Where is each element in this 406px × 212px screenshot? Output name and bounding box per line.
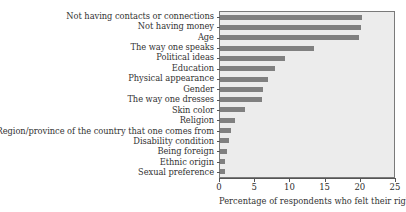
category-tick xyxy=(217,58,220,59)
category-tick xyxy=(217,151,220,152)
x-axis-tick-label: 10 xyxy=(284,183,295,192)
category-label: Being foreign xyxy=(157,147,214,156)
bar-row xyxy=(220,167,394,177)
bar xyxy=(220,97,262,102)
bar xyxy=(220,35,359,40)
x-axis: 0510152025 xyxy=(219,178,395,179)
category-label-row: Not having contacts or connections xyxy=(0,11,217,21)
category-tick xyxy=(217,100,220,101)
category-tick xyxy=(217,120,220,121)
bar xyxy=(220,87,263,92)
category-label: The way one dresses xyxy=(127,95,214,104)
category-label-row: Age xyxy=(0,32,217,42)
category-tick xyxy=(217,162,220,163)
bar xyxy=(220,138,229,143)
x-axis-tick-label: 0 xyxy=(216,183,221,192)
category-label-row: Not having money xyxy=(0,21,217,31)
category-label: The way one speaks xyxy=(131,43,215,52)
x-axis-tick-label: 20 xyxy=(354,183,365,192)
bar-row xyxy=(220,53,394,63)
bar xyxy=(220,56,285,61)
category-label: Ethnic origin xyxy=(160,158,214,167)
bar-row xyxy=(220,84,394,94)
category-label-row: Being foreign xyxy=(0,147,217,157)
bar-row xyxy=(220,136,394,146)
category-label: Political ideas xyxy=(156,53,214,62)
category-label: Education xyxy=(172,64,214,73)
x-axis-tick-label: 5 xyxy=(251,183,256,192)
category-label-row: Political ideas xyxy=(0,53,217,63)
category-tick xyxy=(217,110,220,111)
bar-row xyxy=(220,43,394,53)
category-label-row: Gender xyxy=(0,84,217,94)
bar xyxy=(220,107,245,112)
category-axis-labels: Not having contacts or connectionsNot ha… xyxy=(0,11,217,178)
bar-row xyxy=(220,74,394,84)
category-tick xyxy=(217,17,220,18)
bar xyxy=(220,46,314,51)
category-label: Sexual preference xyxy=(138,168,214,177)
bar-chart: Not having contacts or connectionsNot ha… xyxy=(0,0,406,212)
category-tick xyxy=(217,131,220,132)
category-label: Age xyxy=(198,33,214,42)
bar xyxy=(220,169,225,174)
bar-row xyxy=(220,12,394,22)
category-label: Not having money xyxy=(138,22,214,31)
category-label-row: Region/province of the country that one … xyxy=(0,126,217,136)
category-tick xyxy=(217,79,220,80)
bars-layer xyxy=(220,12,394,177)
category-tick xyxy=(217,172,220,173)
category-label-row: The way one dresses xyxy=(0,95,217,105)
category-tick xyxy=(217,69,220,70)
category-label: Not having contacts or connections xyxy=(66,12,214,21)
category-label: Physical appearance xyxy=(128,74,214,83)
category-label: Religion xyxy=(180,116,214,125)
category-label-row: Sexual preference xyxy=(0,168,217,178)
bar-row xyxy=(220,146,394,156)
bar xyxy=(220,128,231,133)
x-axis-tick-label: 25 xyxy=(390,183,401,192)
bar-row xyxy=(220,156,394,166)
category-tick xyxy=(217,27,220,28)
category-tick xyxy=(217,89,220,90)
bar-row xyxy=(220,22,394,32)
x-axis-title: Percentage of respondents who felt their… xyxy=(219,196,406,206)
plot-area xyxy=(219,11,395,178)
bar xyxy=(220,77,268,82)
bar xyxy=(220,159,225,164)
category-label-row: The way one speaks xyxy=(0,42,217,52)
category-label-row: Religion xyxy=(0,115,217,125)
bar-row xyxy=(220,125,394,135)
category-label-row: Ethnic origin xyxy=(0,157,217,167)
bar-row xyxy=(220,95,394,105)
category-label: Region/province of the country that one … xyxy=(0,127,214,136)
category-label: Gender xyxy=(183,85,214,94)
category-tick xyxy=(217,48,220,49)
bar xyxy=(220,149,227,154)
bar xyxy=(220,15,362,20)
bar-row xyxy=(220,64,394,74)
category-label: Disability condition xyxy=(133,137,214,146)
category-label-row: Education xyxy=(0,63,217,73)
bar xyxy=(220,118,235,123)
bar-row xyxy=(220,115,394,125)
category-tick xyxy=(217,141,220,142)
category-label: Skin color xyxy=(172,106,214,115)
bar-row xyxy=(220,105,394,115)
bar xyxy=(220,66,275,71)
category-label-row: Skin color xyxy=(0,105,217,115)
bar xyxy=(220,25,361,30)
category-label-row: Physical appearance xyxy=(0,74,217,84)
category-tick xyxy=(217,38,220,39)
x-axis-tick-label: 15 xyxy=(319,183,330,192)
category-label-row: Disability condition xyxy=(0,136,217,146)
bar-row xyxy=(220,33,394,43)
